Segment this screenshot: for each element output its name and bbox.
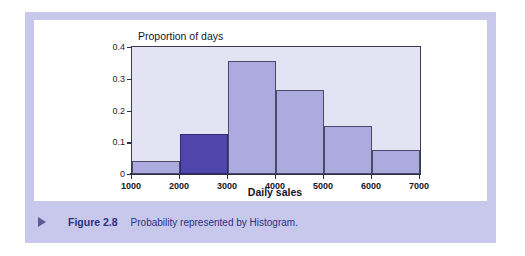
y-tick-label: 0	[120, 169, 125, 179]
y-axis-title: Proportion of days	[138, 30, 223, 42]
histogram-bar	[180, 134, 228, 174]
histogram-bar	[372, 150, 420, 174]
plot-area: 00.10.20.30.4	[131, 46, 421, 174]
histogram-bar	[228, 61, 276, 174]
figure-caption: Figure 2.8 Probability represented by Hi…	[34, 210, 487, 234]
triangle-right-icon	[38, 217, 46, 227]
histogram-bar	[132, 161, 180, 174]
figure-number: Figure 2.8	[68, 216, 118, 228]
y-tick-label: 0.1	[112, 137, 125, 147]
y-tick-label: 0.4	[112, 42, 125, 52]
figure-panel: Proportion of days 00.10.20.30.4 1000200…	[25, 12, 496, 243]
y-tick-label: 0.2	[112, 106, 125, 116]
x-axis-title: Daily sales	[131, 186, 419, 198]
y-tick-mark	[127, 79, 132, 80]
histogram-bar	[324, 126, 372, 174]
y-tick-mark	[127, 47, 132, 48]
y-tick-mark	[127, 111, 132, 112]
y-tick-label: 0.3	[112, 74, 125, 84]
histogram-bar	[276, 90, 324, 174]
chart-panel: Proportion of days 00.10.20.30.4 1000200…	[34, 20, 487, 201]
figure-caption-text: Probability represented by Histogram.	[131, 217, 298, 228]
y-tick-mark	[127, 142, 132, 143]
